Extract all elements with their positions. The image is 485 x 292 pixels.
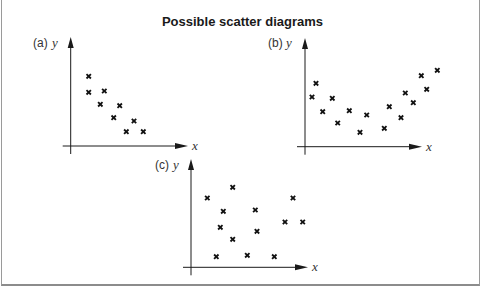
y-axis-label: y — [50, 35, 58, 50]
scatter-panel-c: (c)yx — [155, 157, 318, 275]
data-point-cross-icon — [291, 196, 295, 200]
x-axis-label: x — [425, 139, 432, 154]
data-point-cross-icon — [310, 95, 314, 99]
x-arrow-icon — [175, 143, 188, 149]
data-point-cross-icon — [358, 130, 362, 134]
y-arrow-icon — [188, 159, 194, 170]
x-axis-label: x — [191, 138, 198, 153]
data-point-cross-icon — [231, 237, 235, 241]
data-point-cross-icon — [419, 74, 423, 78]
data-point-cross-icon — [347, 109, 351, 113]
data-point-cross-icon — [141, 130, 145, 134]
x-arrow-icon — [295, 264, 308, 270]
data-point-cross-icon — [102, 89, 106, 93]
data-point-cross-icon — [425, 87, 429, 91]
data-point-cross-icon — [336, 121, 340, 125]
data-point-cross-icon — [435, 68, 439, 72]
data-point-cross-icon — [387, 105, 391, 109]
data-point-cross-icon — [283, 220, 287, 224]
y-arrow-icon — [68, 37, 74, 48]
data-point-cross-icon — [231, 185, 235, 189]
x-arrow-icon — [409, 144, 422, 150]
data-point-cross-icon — [112, 116, 116, 120]
y-axis-label: y — [284, 35, 292, 50]
data-point-cross-icon — [87, 90, 91, 94]
data-point-cross-icon — [205, 196, 209, 200]
data-point-cross-icon — [403, 91, 407, 95]
data-point-cross-icon — [98, 102, 102, 106]
data-point-cross-icon — [218, 225, 222, 229]
data-point-cross-icon — [214, 255, 218, 259]
panel-label: (c) — [155, 158, 169, 172]
data-point-cross-icon — [330, 96, 334, 100]
panel-label: (b) — [268, 36, 283, 50]
y-axis-label: y — [171, 157, 179, 172]
data-point-cross-icon — [253, 208, 257, 212]
x-axis-label: x — [311, 259, 318, 274]
panel-label: (a) — [33, 36, 48, 50]
y-arrow-icon — [302, 38, 308, 49]
data-point-cross-icon — [245, 253, 249, 257]
data-point-cross-icon — [87, 74, 91, 78]
data-point-cross-icon — [272, 255, 276, 259]
data-point-cross-icon — [399, 116, 403, 120]
data-point-cross-icon — [314, 81, 318, 85]
data-point-cross-icon — [221, 209, 225, 213]
data-point-cross-icon — [411, 101, 415, 105]
data-point-cross-icon — [255, 229, 259, 233]
scatter-diagrams: (a)yx(b)yx(c)yx — [0, 0, 485, 292]
data-point-cross-icon — [365, 113, 369, 117]
data-point-cross-icon — [132, 119, 136, 123]
data-point-cross-icon — [124, 130, 128, 134]
scatter-panel-b: (b)yx — [268, 35, 440, 155]
data-point-cross-icon — [301, 220, 305, 224]
data-point-cross-icon — [382, 126, 386, 130]
data-point-cross-icon — [321, 110, 325, 114]
scatter-panel-a: (a)yx — [33, 35, 198, 154]
data-point-cross-icon — [118, 104, 122, 108]
